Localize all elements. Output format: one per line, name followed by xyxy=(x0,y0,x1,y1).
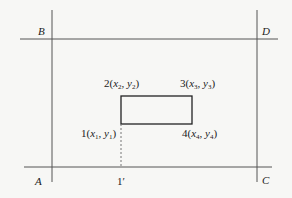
point-label-1: 1(x1, y1) xyxy=(81,127,116,141)
point-label-4: 4(x4, y4) xyxy=(182,127,217,141)
rectangle-1234 xyxy=(121,96,192,124)
corner-label-D: D xyxy=(261,25,270,37)
projection-label-1-prime: 1′ xyxy=(117,175,125,187)
point-label-2: 2(x2, y2) xyxy=(104,77,139,91)
diagram-canvas: B D A C 2(x2, y2) 3(x3, y3) 1(x1, y1) 4(… xyxy=(0,0,292,198)
corner-label-A: A xyxy=(34,175,42,187)
point-label-3: 3(x3, y3) xyxy=(180,77,215,91)
corner-label-B: B xyxy=(38,25,45,37)
corner-label-C: C xyxy=(262,174,270,186)
